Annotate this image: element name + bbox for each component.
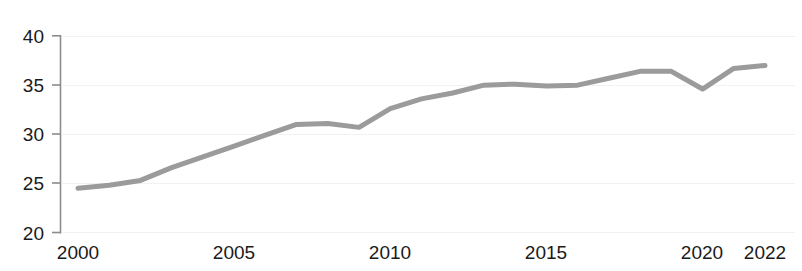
y-tick-label-30: 30 xyxy=(14,125,44,144)
y-tick-label-20: 20 xyxy=(14,224,44,243)
x-tick-label-2010: 2010 xyxy=(348,243,432,262)
x-tick-label-2005: 2005 xyxy=(192,243,276,262)
x-tick-label-2022: 2022 xyxy=(723,243,802,262)
data-line-group xyxy=(78,65,765,188)
gridlines xyxy=(62,37,795,233)
y-tick-label-40: 40 xyxy=(14,27,44,46)
x-tick-label-2000: 2000 xyxy=(36,243,120,262)
line-chart: 40 35 30 25 20 2000 2005 2010 2015 2020 … xyxy=(0,0,802,271)
y-axis xyxy=(52,35,61,234)
y-tick-label-35: 35 xyxy=(14,76,44,95)
chart-canvas xyxy=(0,0,802,271)
y-tick-label-25: 25 xyxy=(14,174,44,193)
data-line-series-1 xyxy=(78,65,765,188)
x-tick-label-2015: 2015 xyxy=(504,243,588,262)
